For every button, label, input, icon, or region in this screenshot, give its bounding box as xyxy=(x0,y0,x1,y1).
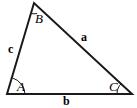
side-label-a: a xyxy=(81,31,87,43)
side-label-b: b xyxy=(63,95,70,107)
side-label-c: c xyxy=(8,43,13,55)
vertex-label-a: A xyxy=(17,80,25,93)
triangle-figure: A B C a b c xyxy=(0,0,137,108)
vertex-label-b: B xyxy=(35,12,43,25)
vertex-label-c: C xyxy=(109,80,118,93)
